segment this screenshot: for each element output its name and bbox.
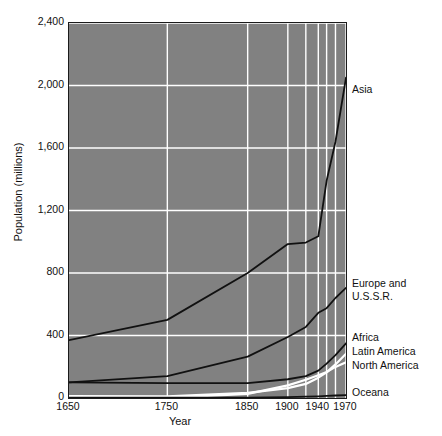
- y-tick-label: 2,000: [18, 79, 64, 90]
- series-label-asia: Asia: [352, 83, 372, 96]
- y-tick-label: 1,600: [18, 141, 64, 152]
- series-label-north-america: North America: [352, 359, 419, 372]
- y-tick-label: 2,400: [18, 16, 64, 27]
- series-label-latin-america: Latin America: [352, 345, 416, 358]
- series-label-line-2: U.S.S.R.: [352, 290, 406, 303]
- y-tick-label: 1,200: [18, 204, 64, 215]
- plot-area: [68, 22, 347, 399]
- chart-figure: 04008001,2001,6002,0002,400 Population (…: [0, 0, 442, 436]
- series-label-oceana: Oceana: [352, 386, 389, 399]
- x-tick-label: 1850: [227, 400, 267, 412]
- y-tick-label: 400: [18, 329, 64, 340]
- series-line-africa: [69, 343, 346, 383]
- plot-clip: [69, 23, 346, 398]
- y-axis-title: Population (millions): [12, 117, 24, 267]
- series-line-latin-america: [69, 354, 346, 397]
- x-tick-label: 1650: [48, 400, 88, 412]
- x-axis-title: Year: [120, 415, 240, 427]
- y-tick-label: 800: [18, 266, 64, 277]
- x-tick-label: 1970: [325, 400, 365, 412]
- series-label-africa: Africa: [352, 331, 379, 344]
- x-tick-label: 1750: [146, 400, 186, 412]
- series-label-line-1: Europe and: [352, 277, 406, 290]
- series-line-asia: [69, 78, 346, 341]
- series-canvas: [69, 23, 346, 398]
- series-label-europe-and-u-s-s-r: Europe andU.S.S.R.: [352, 277, 406, 303]
